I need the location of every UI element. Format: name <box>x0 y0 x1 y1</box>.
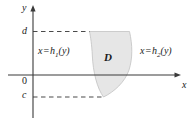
left-curve-equals: = <box>42 45 50 56</box>
y-axis-arrowhead <box>30 5 35 12</box>
tick-label-d: d <box>22 26 27 36</box>
x-axis-arrowhead <box>175 72 182 77</box>
origin-label: 0 <box>22 76 27 86</box>
right-curve-equals: = <box>144 45 152 56</box>
region-d-shape <box>90 32 132 98</box>
figure-canvas <box>0 0 195 123</box>
x-axis-label: x <box>182 80 186 90</box>
left-curve-argument: (y) <box>59 45 70 56</box>
region-label-d: D <box>104 52 112 63</box>
left-boundary-curve-label: x=h1(y) <box>38 46 70 59</box>
tick-label-c: c <box>22 90 26 100</box>
y-axis-label: y <box>22 3 26 13</box>
right-curve-argument: (y) <box>161 45 172 56</box>
right-boundary-curve-label: x=h2(y) <box>140 46 172 59</box>
type-ii-region-figure: y x d c 0 x=h1(y) x=h2(y) D <box>0 0 195 123</box>
